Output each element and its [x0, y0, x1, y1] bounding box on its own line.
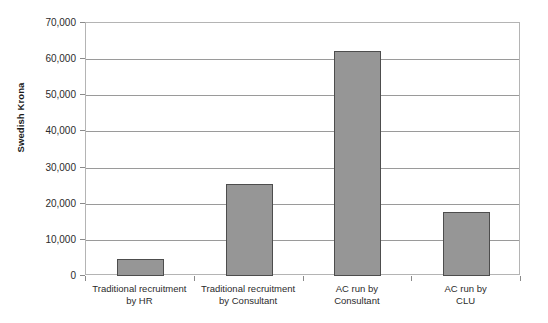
x-category-label-line: by Consultant — [194, 295, 303, 307]
y-tick-label: 70,000 — [16, 17, 76, 28]
y-tick-label: 50,000 — [16, 89, 76, 100]
y-axis-title: Swedish Krona — [15, 70, 26, 166]
x-category-label-line: Consultant — [303, 295, 412, 307]
plot-area — [85, 22, 520, 275]
x-category-label-line: by HR — [85, 295, 194, 307]
gridline — [86, 168, 519, 169]
x-category-label-line: Traditional recruitment — [85, 283, 194, 295]
x-tick-mark — [520, 276, 521, 281]
x-category-label-line: AC run by — [303, 283, 412, 295]
y-tick-label: 30,000 — [16, 161, 76, 172]
bar — [334, 51, 381, 276]
x-tick-mark — [411, 276, 412, 281]
x-category-label: Traditional recruitmentby HR — [85, 283, 194, 307]
bar — [226, 184, 273, 276]
y-tick-label: 0 — [16, 270, 76, 281]
x-category-label: Traditional recruitmentby Consultant — [194, 283, 303, 307]
x-category-label: AC run byCLU — [411, 283, 520, 307]
gridline — [86, 59, 519, 60]
bar — [117, 259, 164, 276]
bar — [443, 212, 490, 276]
gridline — [86, 131, 519, 132]
x-tick-mark — [85, 276, 86, 281]
y-tick-label: 20,000 — [16, 197, 76, 208]
y-tick-label: 40,000 — [16, 125, 76, 136]
x-category-label-line: CLU — [411, 295, 520, 307]
x-tick-mark — [194, 276, 195, 281]
bar-chart: Swedish Krona 70,00060,00050,00040,00030… — [0, 0, 548, 323]
x-category-label-line: AC run by — [411, 283, 520, 295]
gridline — [86, 95, 519, 96]
gridline — [86, 204, 519, 205]
x-tick-mark — [303, 276, 304, 281]
x-category-label-line: Traditional recruitment — [194, 283, 303, 295]
y-tick-label: 60,000 — [16, 53, 76, 64]
y-tick-label: 10,000 — [16, 233, 76, 244]
x-category-label: AC run byConsultant — [303, 283, 412, 307]
